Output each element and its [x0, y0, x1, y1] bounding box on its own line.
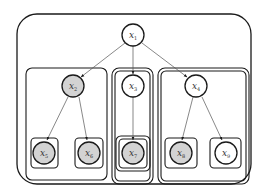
edge-x1-x2: [81, 43, 125, 77]
edge-x4-x8: [182, 97, 193, 140]
node-x3: x3: [122, 75, 144, 97]
node-x6: x6: [78, 142, 100, 164]
node-x4: x4: [185, 75, 207, 97]
node-x5: x5: [33, 142, 55, 164]
edge-x2-x5: [47, 97, 68, 140]
edge-x2-x6: [79, 97, 87, 140]
node-x2: x2: [62, 75, 84, 97]
graphical-model-diagram: x1 x2 x3 x4 x5 x6 x7 x8 x9: [0, 0, 260, 196]
edge-x4-x9: [202, 97, 222, 140]
node-x7: x7: [122, 142, 144, 164]
node-x8: x8: [170, 142, 192, 164]
node-x1: x1: [122, 24, 144, 46]
node-x9: x9: [215, 142, 237, 164]
edge-x1-x4: [142, 43, 187, 77]
